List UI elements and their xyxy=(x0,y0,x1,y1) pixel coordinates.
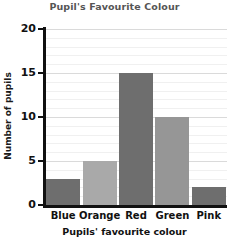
y-tick-label: 10 xyxy=(12,111,36,122)
gridline-minor xyxy=(45,64,227,65)
bar-pink xyxy=(192,187,226,205)
y-tick-label: 0 xyxy=(12,199,36,210)
y-tick-label: 5 xyxy=(12,155,36,166)
x-category-label-pink: Pink xyxy=(183,210,229,222)
y-tick-mark xyxy=(38,116,44,118)
chart-title: Pupil's Favourite Colour xyxy=(0,0,229,13)
gridline-minor xyxy=(45,47,227,48)
bar-blue xyxy=(46,179,80,205)
y-tick-mark xyxy=(38,204,44,206)
bar-chart: Pupil's Favourite Colour Number of pupil… xyxy=(0,0,229,242)
gridline-major xyxy=(45,29,227,30)
bar-green xyxy=(155,117,189,205)
y-tick-label: 20 xyxy=(12,23,36,34)
bar-orange xyxy=(83,161,117,205)
x-axis-line xyxy=(43,205,227,208)
y-tick-mark xyxy=(38,72,44,74)
y-tick-mark xyxy=(38,28,44,30)
gridline-minor xyxy=(45,38,227,39)
gridline-minor xyxy=(45,55,227,56)
x-axis-title: Pupils' favourite colour xyxy=(20,226,229,237)
y-tick-label: 15 xyxy=(12,67,36,78)
plot-area xyxy=(45,29,227,205)
y-tick-mark xyxy=(38,160,44,162)
bar-red xyxy=(119,73,153,205)
